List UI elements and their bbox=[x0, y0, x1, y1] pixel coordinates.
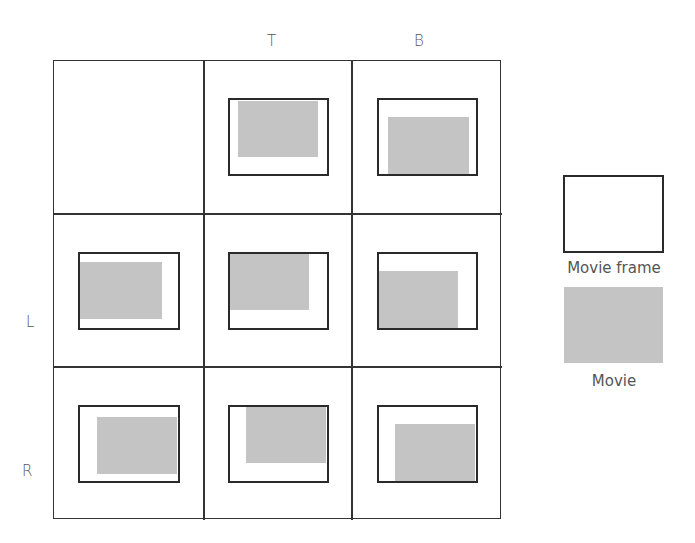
movie-frame bbox=[78, 252, 180, 330]
movie-frame bbox=[228, 405, 329, 483]
column-header-t: T bbox=[267, 32, 276, 50]
movie-frame bbox=[377, 98, 478, 176]
movie-frame bbox=[78, 405, 180, 483]
row-header-l: L bbox=[26, 313, 34, 331]
legend-movie-label: Movie bbox=[555, 372, 673, 390]
legend-movie-swatch bbox=[564, 287, 663, 363]
movie-frame bbox=[228, 98, 329, 176]
grid-divider-col-2 bbox=[351, 60, 353, 520]
legend-frame-swatch bbox=[563, 175, 664, 253]
grid-divider-col-1 bbox=[203, 60, 205, 520]
movie-frame bbox=[377, 252, 478, 330]
grid-divider-row-2 bbox=[53, 366, 502, 368]
row-header-r: R bbox=[22, 462, 32, 480]
legend-frame-label: Movie frame bbox=[555, 259, 673, 277]
column-header-b: B bbox=[414, 32, 424, 50]
grid-divider-row-1 bbox=[53, 213, 502, 215]
movie-frame bbox=[228, 252, 329, 330]
movie-frame bbox=[377, 405, 478, 483]
